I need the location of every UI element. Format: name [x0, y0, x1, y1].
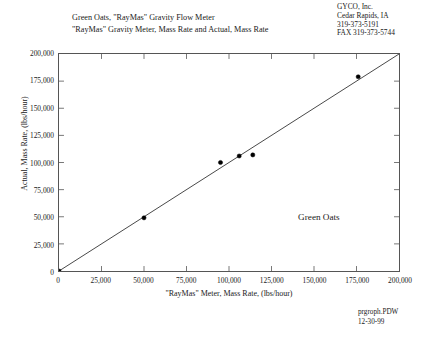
y-axis-tick-label: 50,000 [34, 213, 54, 222]
data-point [59, 269, 61, 271]
y-axis-title: Actual, Mass Rate, (lbs/hour) [20, 34, 29, 254]
y-axis-tick-label: 125,000 [30, 131, 54, 140]
x-axis-tick-label: 175,000 [345, 276, 369, 285]
plot-canvas [59, 54, 399, 271]
y-axis-tick-label: 0 [50, 268, 54, 277]
y-axis-tick-label: 150,000 [30, 103, 54, 112]
x-axis-tick-label: 150,000 [302, 276, 326, 285]
data-point [142, 216, 146, 220]
x-axis-tick-label: 75,000 [176, 276, 196, 285]
footer-filename: prgroph.PDW [358, 308, 398, 318]
x-axis-title: "RayMas" Meter, Mass Rate, (lbs/hour) [58, 289, 400, 298]
company-fax: FAX 319-373-5744 [337, 29, 395, 38]
footer-block: prgroph.PDW 12-30-99 [358, 308, 398, 327]
x-axis-tick-label: 100,000 [217, 276, 241, 285]
footer-date: 12-30-99 [358, 318, 398, 328]
x-axis-tick-label: 25,000 [91, 276, 111, 285]
chart-title-line-1: Green Oats, "RayMas" Gravity Flow Meter [72, 12, 268, 24]
chart-title-line-2: "RayMas" Gravity Meter, Mass Rate and Ac… [72, 24, 268, 36]
data-point [356, 75, 360, 79]
y-axis-tick-label: 25,000 [34, 240, 54, 249]
chart-title: Green Oats, "RayMas" Gravity Flow Meter … [72, 12, 268, 35]
x-axis-tick-label: 200,000 [388, 276, 412, 285]
x-axis-tick-labels: 025,00050,00075,000100,000125,000150,000… [58, 276, 400, 290]
reference-line [59, 54, 399, 271]
company-info-block: GYCO, Inc. Cedar Rapids, IA 319-373-5191… [337, 3, 395, 38]
series-annotation-label: Green Oats [298, 212, 340, 222]
y-axis-tick-label: 200,000 [30, 49, 54, 58]
data-point [218, 160, 222, 164]
y-axis-tick-label: 75,000 [34, 185, 54, 194]
x-axis-tick-label: 125,000 [260, 276, 284, 285]
x-axis-tick-label: 0 [56, 276, 60, 285]
y-axis-tick-label: 175,000 [30, 76, 54, 85]
y-axis-tick-label: 100,000 [30, 158, 54, 167]
data-point [237, 154, 241, 158]
plot-area: Green Oats [58, 53, 400, 272]
x-axis-tick-label: 50,000 [133, 276, 153, 285]
data-point [251, 153, 255, 157]
